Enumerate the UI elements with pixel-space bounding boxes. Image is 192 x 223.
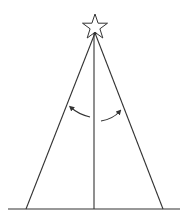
right-curved-arrow-icon: [101, 112, 120, 122]
tree-diagram: [0, 0, 192, 223]
left-curved-arrow-icon: [71, 108, 90, 118]
diagram-canvas: [0, 0, 192, 223]
left-side-line: [26, 33, 95, 209]
apex-dot: [94, 32, 97, 35]
right-side-line: [95, 33, 163, 209]
